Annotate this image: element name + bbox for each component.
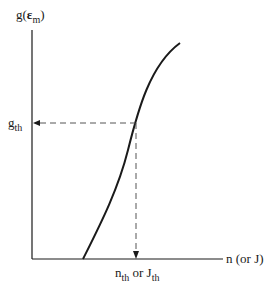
threshold-density-label: nth or Jth bbox=[115, 266, 159, 279]
threshold-gain-label: gth bbox=[8, 116, 22, 129]
x-axis-label: n (or J) bbox=[226, 252, 264, 265]
down-arrowhead-icon bbox=[133, 251, 139, 259]
gain-curve bbox=[83, 43, 180, 259]
left-arrowhead-icon bbox=[33, 120, 40, 126]
y-axis-label: g(εm) bbox=[16, 8, 45, 21]
